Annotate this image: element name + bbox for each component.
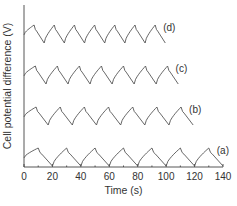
trace-b bbox=[24, 107, 193, 125]
axes bbox=[24, 5, 223, 167]
x-tick-label: 0 bbox=[21, 171, 27, 182]
trace-c bbox=[24, 66, 178, 84]
trace-labels: (a)(b)(c)(d) bbox=[163, 22, 229, 156]
x-tick-label: 60 bbox=[104, 171, 116, 182]
trace-label-d: (d) bbox=[163, 22, 175, 33]
x-tick-label: 120 bbox=[186, 171, 203, 182]
x-tick-label: 20 bbox=[47, 171, 59, 182]
x-axis-title: Time (s) bbox=[104, 184, 142, 196]
x-tick-labels: 020406080100120140 bbox=[21, 171, 232, 182]
y-axis-title: Cell potential difference (V) bbox=[1, 23, 13, 149]
trace-d bbox=[24, 25, 165, 43]
trace-label-c: (c) bbox=[176, 63, 188, 74]
x-tick-label: 40 bbox=[75, 171, 87, 182]
x-tick-label: 140 bbox=[215, 171, 232, 182]
chart: 020406080100120140 (a)(b)(c)(d) Time (s)… bbox=[0, 0, 237, 206]
trace-label-b: (b) bbox=[189, 104, 201, 115]
trace-label-a: (a) bbox=[217, 145, 229, 156]
traces bbox=[24, 25, 223, 166]
x-tick-label: 80 bbox=[132, 171, 144, 182]
x-tick-label: 100 bbox=[158, 171, 175, 182]
trace-a bbox=[24, 148, 223, 166]
